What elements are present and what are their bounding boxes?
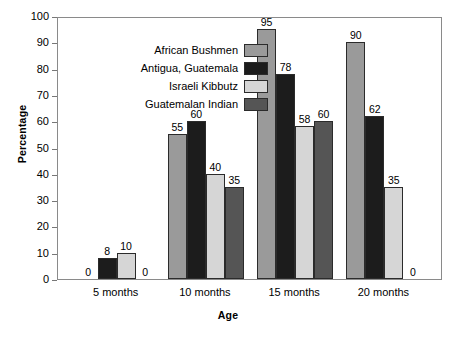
bar xyxy=(365,116,384,279)
bar xyxy=(384,187,403,279)
x-axis-tick-label: 20 months xyxy=(338,286,428,298)
bar xyxy=(206,174,225,279)
legend-label: Antigua, Guatemala xyxy=(141,62,238,74)
legend-item: Antigua, Guatemala xyxy=(120,59,268,77)
chart-legend: African BushmenAntigua, GuatemalaIsraeli… xyxy=(120,41,268,113)
bar-value-label: 10 xyxy=(111,241,142,252)
legend-swatch xyxy=(244,44,268,57)
x-axis-tick-label: 15 months xyxy=(249,286,339,298)
bar-value-label: 0 xyxy=(130,267,161,278)
bar xyxy=(314,121,333,279)
y-axis-tick-label: 10 xyxy=(15,248,49,259)
bar xyxy=(168,134,187,279)
x-axis-tick-label: 5 months xyxy=(71,286,161,298)
bar-value-label: 35 xyxy=(378,175,409,186)
y-axis-tick-label: 40 xyxy=(15,169,49,180)
legend-label: Israeli Kibbutz xyxy=(169,80,238,92)
y-axis-tick-label: 80 xyxy=(15,64,49,75)
bar-value-label: 40 xyxy=(200,162,231,173)
legend-item: Israeli Kibbutz xyxy=(120,77,268,95)
legend-swatch xyxy=(244,98,268,111)
bar xyxy=(187,121,206,279)
bar xyxy=(276,74,295,279)
x-axis-title: Age xyxy=(0,309,456,321)
plot-area: 0810055604035957858609062350 African Bus… xyxy=(57,17,442,280)
y-axis-tick-label: 0 xyxy=(15,274,49,285)
bar-value-label: 95 xyxy=(251,17,282,28)
y-axis-tick-label: 60 xyxy=(15,116,49,127)
y-axis-tick-label: 30 xyxy=(15,195,49,206)
bar xyxy=(225,187,244,279)
bar-chart-figure: Percentage 0102030405060708090100 081005… xyxy=(0,0,456,337)
bar-value-label: 60 xyxy=(308,109,339,120)
y-axis-tick-mark xyxy=(52,280,57,281)
bar-value-label: 62 xyxy=(359,104,390,115)
bar xyxy=(295,126,314,279)
legend-label: Guatemalan Indian xyxy=(145,98,238,110)
x-axis-tick-label: 10 months xyxy=(160,286,250,298)
bar-value-label: 78 xyxy=(270,62,301,73)
legend-swatch xyxy=(244,62,268,75)
bar-value-label: 90 xyxy=(340,30,371,41)
bar xyxy=(98,258,117,279)
y-axis-tick-label: 100 xyxy=(15,11,49,22)
bar xyxy=(346,42,365,279)
legend-item: Guatemalan Indian xyxy=(120,95,268,113)
y-axis-tick-label: 20 xyxy=(15,221,49,232)
legend-swatch xyxy=(244,80,268,93)
y-axis-tick-label: 70 xyxy=(15,90,49,101)
bar-value-label: 0 xyxy=(397,267,428,278)
legend-label: African Bushmen xyxy=(154,44,238,56)
legend-item: African Bushmen xyxy=(120,41,268,59)
bar-value-label: 35 xyxy=(219,175,250,186)
y-axis-tick-label: 90 xyxy=(15,37,49,48)
y-axis-tick-label: 50 xyxy=(15,143,49,154)
